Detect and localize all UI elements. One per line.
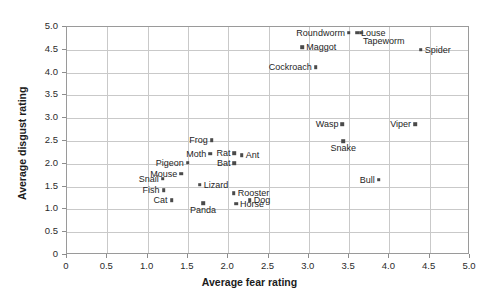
y-axis-tick-label: 4.5	[18, 43, 58, 54]
y-axis-tick	[62, 208, 66, 209]
y-axis-tick	[62, 117, 66, 118]
x-axis-tick-label: 4.5	[409, 260, 449, 271]
data-point	[300, 46, 304, 50]
y-axis-tick-label: 3.5	[18, 88, 58, 99]
data-point-label: Maggot	[306, 43, 336, 52]
x-axis-tick	[308, 254, 309, 258]
data-point	[359, 31, 363, 35]
data-point	[413, 122, 417, 126]
x-axis-tick	[187, 254, 188, 258]
data-point-label: Spider	[425, 45, 451, 54]
gridline-vertical	[430, 27, 431, 253]
x-axis-title: Average fear rating	[0, 276, 499, 288]
data-point	[186, 161, 190, 165]
y-axis-tick-label: 1.5	[18, 180, 58, 191]
data-point-label: Lizard	[204, 180, 229, 189]
x-axis-tick	[106, 254, 107, 258]
data-point	[233, 151, 237, 155]
data-point-label: Viper	[390, 120, 411, 129]
x-axis-tick	[429, 254, 430, 258]
gridline-vertical	[349, 27, 350, 253]
data-point	[234, 202, 238, 206]
gridline-horizontal	[67, 209, 468, 210]
x-axis-tick-label: 1.0	[127, 260, 167, 271]
data-point-label: Snake	[330, 144, 356, 153]
data-point-label: Bat	[217, 159, 231, 168]
x-axis-tick-label: 5.0	[449, 260, 489, 271]
data-point	[232, 192, 236, 196]
data-point-label: Roundworm	[296, 28, 345, 37]
gridline-vertical	[148, 27, 149, 253]
data-point-label: Fish	[143, 186, 160, 195]
x-axis-tick	[348, 254, 349, 258]
y-axis-tick-label: 0	[18, 248, 58, 259]
data-point-label: Cockroach	[269, 63, 312, 72]
x-axis-tick-label: 3.5	[328, 260, 368, 271]
data-point-label: Ant	[246, 151, 260, 160]
data-point-label: Snail	[139, 174, 159, 183]
gridline-horizontal	[67, 164, 468, 165]
y-axis-tick	[62, 163, 66, 164]
x-axis-tick	[469, 254, 470, 258]
x-axis-tick	[147, 254, 148, 258]
x-axis-tick-label: 3.0	[288, 260, 328, 271]
data-point-label: Pigeon	[156, 158, 184, 167]
scatter-chart-figure: Average fear rating Average disgust rati…	[0, 0, 499, 300]
x-axis-tick-label: 0.5	[86, 260, 126, 271]
gridline-vertical	[389, 27, 390, 253]
data-point	[208, 152, 212, 156]
y-axis-tick	[62, 49, 66, 50]
gridline-horizontal	[67, 232, 468, 233]
x-axis-tick	[66, 254, 67, 258]
plot-area	[66, 26, 469, 254]
data-point	[170, 198, 174, 202]
gridline-horizontal	[67, 50, 468, 51]
data-point	[377, 178, 381, 182]
data-point	[198, 183, 202, 187]
gridline-vertical	[107, 27, 108, 253]
x-axis-tick-label: 4.0	[368, 260, 408, 271]
y-axis-tick-label: 3.0	[18, 111, 58, 122]
data-point	[233, 161, 237, 165]
y-axis-tick-label: 2.5	[18, 134, 58, 145]
x-axis-tick	[227, 254, 228, 258]
data-point-label: Cat	[154, 196, 168, 205]
y-axis-tick	[62, 231, 66, 232]
data-point	[240, 153, 244, 157]
y-axis-tick	[62, 140, 66, 141]
data-point	[419, 48, 423, 52]
y-axis-tick-label: 0.5	[18, 225, 58, 236]
data-point	[179, 172, 183, 176]
data-point-label: Frog	[189, 136, 208, 145]
data-point-label: Horse	[240, 199, 264, 208]
data-point-label: Bull	[360, 175, 375, 184]
data-point-label: Tapeworm	[363, 37, 405, 46]
x-axis-tick	[388, 254, 389, 258]
x-axis-tick-label: 2.5	[248, 260, 288, 271]
y-axis-tick	[62, 26, 66, 27]
data-point	[341, 122, 345, 126]
data-point-label: Wasp	[316, 120, 339, 129]
gridline-horizontal	[67, 141, 468, 142]
x-axis-tick-label: 0	[46, 260, 86, 271]
data-point	[314, 65, 318, 69]
y-axis-tick	[62, 72, 66, 73]
y-axis-tick	[62, 94, 66, 95]
y-axis-tick-label: 2.0	[18, 157, 58, 168]
x-axis-tick	[268, 254, 269, 258]
y-axis-tick-label: 1.0	[18, 202, 58, 213]
y-axis-tick-label: 4.0	[18, 66, 58, 77]
data-point-label: Moth	[186, 149, 206, 158]
data-point-label: Panda	[190, 206, 216, 215]
data-point	[347, 31, 351, 35]
gridline-vertical	[228, 27, 229, 253]
y-axis-tick	[62, 186, 66, 187]
gridline-horizontal	[67, 73, 468, 74]
x-axis-tick-label: 2.0	[207, 260, 247, 271]
y-axis-tick-label: 5.0	[18, 20, 58, 31]
data-point	[161, 177, 165, 181]
data-point	[210, 138, 214, 142]
y-axis-tick	[62, 254, 66, 255]
gridline-horizontal	[67, 95, 468, 96]
data-point	[162, 188, 166, 192]
